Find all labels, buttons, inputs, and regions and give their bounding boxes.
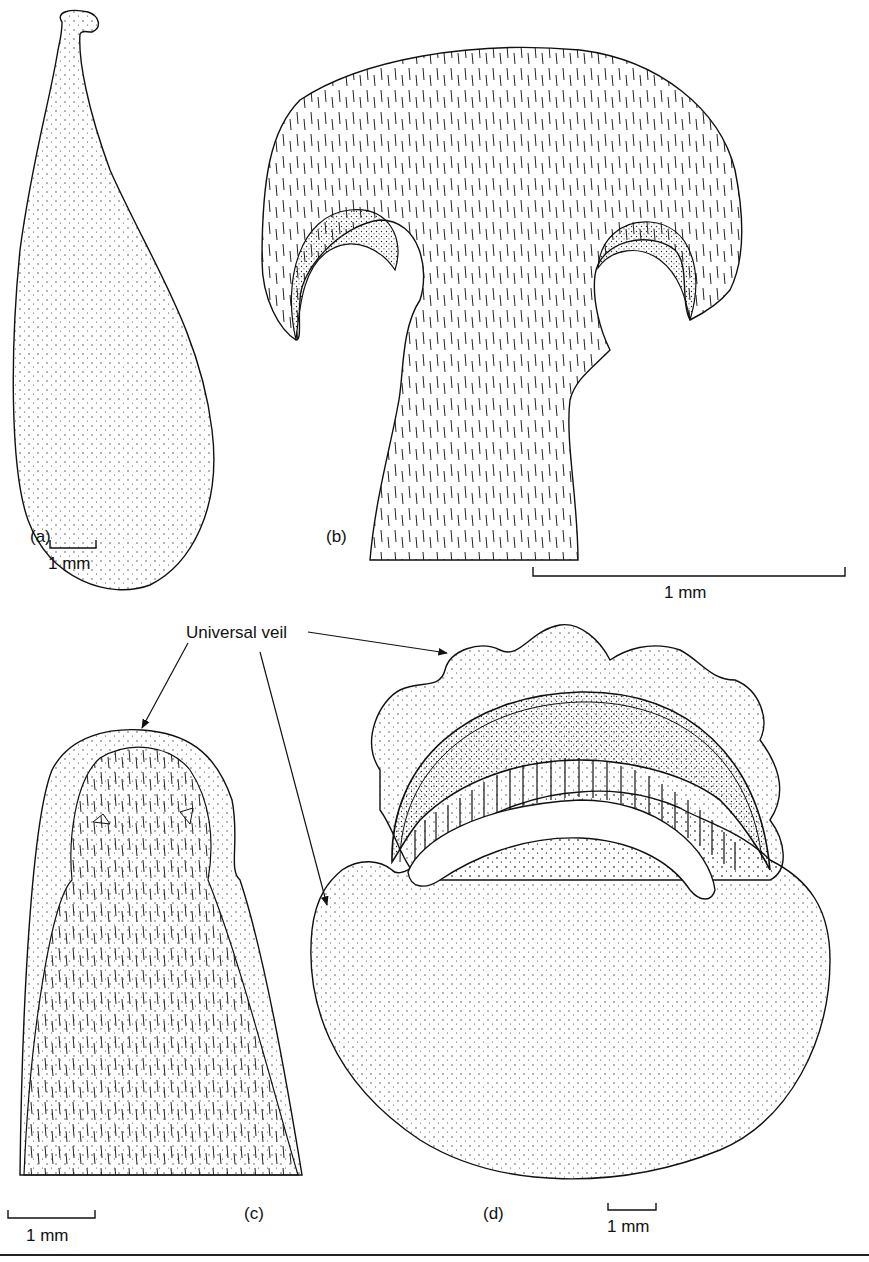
panel-label-d: (d) xyxy=(483,1205,504,1222)
illustration-canvas xyxy=(0,0,869,1262)
scale-label-a: 1 mm xyxy=(48,555,91,572)
scale-bar-b xyxy=(533,567,845,576)
bottom-rule xyxy=(0,1254,869,1256)
panel-label-b: (b) xyxy=(326,528,347,545)
panel-label-c: (c) xyxy=(244,1205,264,1222)
panel-c-drawing xyxy=(20,730,302,1175)
scale-bar-d xyxy=(608,1203,656,1210)
panel-a-drawing xyxy=(13,10,214,589)
scale-label-d: 1 mm xyxy=(607,1218,650,1235)
universal-veil-label: Universal veil xyxy=(186,624,287,641)
scale-bar-c xyxy=(8,1210,95,1218)
panel-d-drawing xyxy=(311,625,830,1179)
panel-label-a: (a) xyxy=(30,528,51,545)
panel-b-drawing xyxy=(262,47,742,560)
scale-label-c: 1 mm xyxy=(26,1227,69,1244)
scale-label-b: 1 mm xyxy=(664,584,707,601)
